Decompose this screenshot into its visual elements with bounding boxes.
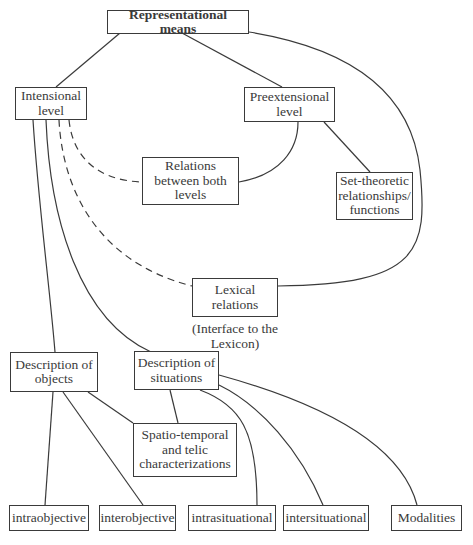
node-spatio-temporal-telic: Spatio-temporal and telic characterizati… [133,423,237,477]
node-description-of-situations: Description of situations [134,351,219,390]
node-relations-between-both-levels: Relations between both levels [142,157,239,205]
edge-descobjects-interobjective [63,392,143,505]
edge-descsituations-spatiotemporal [170,390,178,423]
node-interobjective: interobjective [99,505,176,531]
node-representational-means: Representational means [107,10,249,34]
node-description-of-objects: Description of objects [10,352,98,392]
edge-intensional-descsituations [46,120,151,352]
node-intraobjective: intraobjective [9,505,89,531]
edge-preextensional-relations [239,122,298,182]
edge-preextensional-settheoretic [324,122,370,172]
node-set-theoretic-relationships: Set-theoretic relationships/ functions [336,172,413,220]
node-intrasituational: intrasituational [188,505,276,531]
edge-descobjects-intraobjective [45,392,53,505]
edge-intensional-descobjects [33,120,55,352]
edge-root-lexical [249,32,422,286]
edge-intensional-relations-dashed [69,120,142,182]
edge-root-intensional [56,33,120,87]
node-intersituational: intersituational [283,505,369,531]
node-modalities: Modalities [391,505,462,531]
edge-descobjects-spatiotemporal [88,392,133,423]
node-preextensional-level: Preextensional level [244,87,335,122]
edge-descsituations-modalities [219,375,417,505]
node-lexical-relations: Lexical relations [192,278,278,317]
edge-root-preextensional [182,33,282,87]
node-intensional-level: Intensional level [15,87,87,120]
lexical-relations-caption: (Interface to the Lexicon) [180,321,290,351]
